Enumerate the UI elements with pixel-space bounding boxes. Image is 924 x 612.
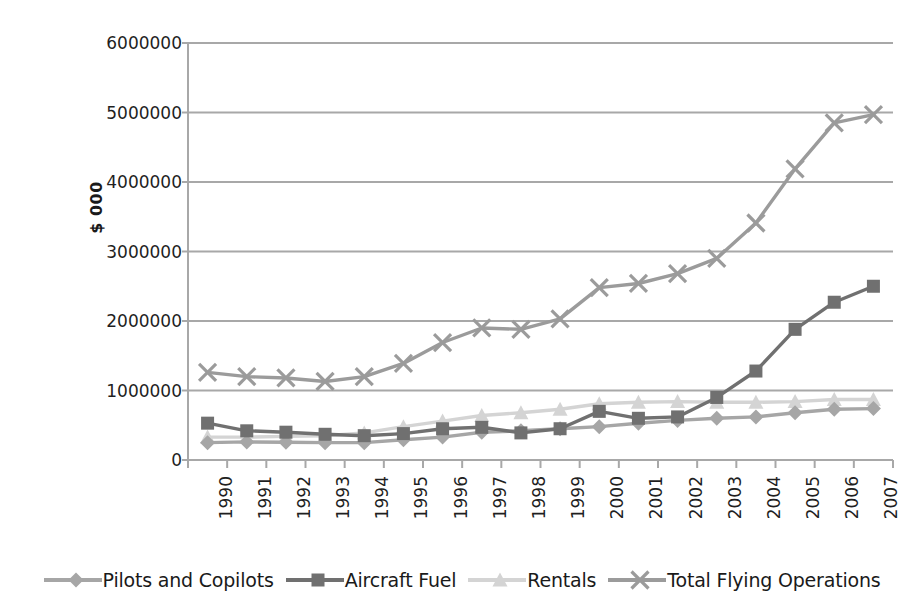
x-axis-tick-label: 2007 bbox=[881, 476, 901, 519]
x-axis-tick-label: 2003 bbox=[725, 476, 745, 519]
legend-item[interactable]: Aircraft Fuel bbox=[286, 569, 457, 591]
legend-label: Aircraft Fuel bbox=[344, 569, 457, 591]
x-axis-tick-label: 1997 bbox=[490, 476, 510, 519]
legend-cross-icon bbox=[608, 569, 666, 591]
legend-label: Rentals bbox=[526, 569, 596, 591]
x-axis-tick-label: 2002 bbox=[686, 476, 706, 519]
legend-diamond-icon bbox=[44, 569, 102, 591]
x-axis-tick-label: 1993 bbox=[333, 476, 353, 519]
x-axis-tick-label: 1992 bbox=[294, 476, 314, 519]
legend-item[interactable]: Rentals bbox=[468, 569, 596, 591]
x-axis-tick-labels: 1990199119921993199419951996199719981999… bbox=[0, 0, 924, 612]
x-axis-tick-label: 2004 bbox=[764, 476, 784, 519]
legend-item[interactable]: Pilots and Copilots bbox=[44, 569, 274, 591]
legend-square-icon bbox=[286, 569, 344, 591]
data-point-marker bbox=[493, 573, 508, 587]
x-axis-tick-label: 1996 bbox=[451, 476, 471, 519]
x-axis-tick-label: 2001 bbox=[646, 476, 666, 519]
legend-triangle-icon bbox=[468, 569, 526, 591]
line-chart: $ 000 0100000020000003000000400000050000… bbox=[0, 0, 924, 612]
data-point-marker bbox=[311, 574, 324, 587]
x-axis-tick-label: 2006 bbox=[842, 476, 862, 519]
chart-legend: Pilots and CopilotsAircraft FuelRentalsT… bbox=[0, 560, 924, 600]
x-axis-tick-label: 2005 bbox=[803, 476, 823, 519]
data-point-marker bbox=[632, 572, 649, 589]
legend-label: Total Flying Operations bbox=[666, 569, 880, 591]
x-axis-tick-label: 2000 bbox=[607, 476, 627, 519]
x-axis-tick-label: 1994 bbox=[372, 476, 392, 519]
x-axis-tick-label: 1998 bbox=[529, 476, 549, 519]
x-axis-tick-label: 1991 bbox=[255, 476, 275, 519]
x-axis-tick-label: 1990 bbox=[216, 476, 236, 519]
legend-label: Pilots and Copilots bbox=[102, 569, 274, 591]
legend-item[interactable]: Total Flying Operations bbox=[608, 569, 880, 591]
x-axis-tick-label: 1999 bbox=[568, 476, 588, 519]
x-axis-tick-label: 1995 bbox=[411, 476, 431, 519]
data-point-marker bbox=[68, 573, 83, 588]
